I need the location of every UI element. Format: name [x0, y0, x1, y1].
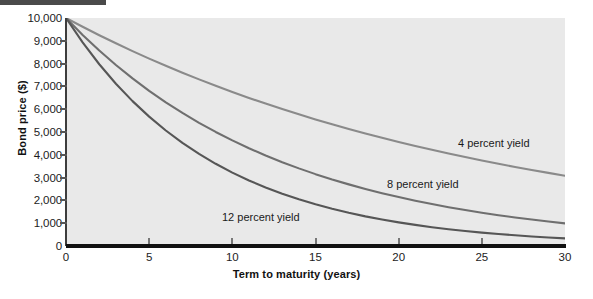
x-tick-label: 20	[392, 251, 405, 264]
x-tick-label: 30	[559, 251, 572, 264]
x-tick-label: 25	[475, 251, 488, 264]
x-tickmark	[231, 238, 233, 244]
plot-area	[66, 18, 565, 246]
curve-annotation-12-percent: 12 percent yield	[222, 211, 300, 223]
x-tick-label: 0	[63, 251, 69, 264]
plot-svg	[66, 18, 565, 246]
y-tickmark	[60, 222, 67, 224]
y-tick-label: 3,000	[6, 172, 62, 184]
y-tick-label: 10,000	[6, 12, 62, 24]
y-tickmark	[60, 63, 67, 65]
x-tick-label: 10	[226, 251, 239, 264]
x-tickmark	[481, 238, 483, 244]
y-tickmark	[60, 108, 67, 110]
y-axis-title: Bond price ($)	[16, 58, 28, 178]
y-tickmark	[60, 199, 67, 201]
y-tick-label: 6,000	[6, 103, 62, 115]
y-tick-label: 7,000	[6, 80, 62, 92]
y-tick-label: 9,000	[6, 35, 62, 47]
y-tickmark	[60, 154, 67, 156]
curve-12-percent-yield	[66, 18, 565, 238]
curve-8-percent-yield	[66, 18, 565, 223]
y-tick-label: 8,000	[6, 58, 62, 70]
x-axis-tickmarks	[0, 238, 593, 246]
x-axis-tick-labels: 051015202530	[0, 251, 593, 269]
curve-4-percent-yield	[66, 18, 565, 176]
curve-annotation-4-percent: 4 percent yield	[458, 137, 530, 149]
y-tick-label: 4,000	[6, 149, 62, 161]
y-tick-label: 1,000	[6, 217, 62, 229]
bond-price-chart-figure: 01,0002,0003,0004,0005,0006,0007,0008,00…	[0, 0, 593, 299]
curve-group	[66, 18, 565, 238]
y-tick-label: 2,000	[6, 194, 62, 206]
x-tickmark	[315, 238, 317, 244]
x-axis-title: Term to maturity (years)	[0, 268, 593, 280]
x-tickmark	[148, 238, 150, 244]
y-tick-label: 5,000	[6, 126, 62, 138]
curve-annotation-8-percent: 8 percent yield	[387, 178, 459, 190]
x-tickmark	[398, 238, 400, 244]
y-tickmark	[60, 40, 67, 42]
x-tick-label: 5	[146, 251, 152, 264]
y-tickmark	[60, 131, 67, 133]
y-tickmark	[60, 85, 67, 87]
x-tick-label: 15	[309, 251, 322, 264]
y-tickmark	[60, 177, 67, 179]
